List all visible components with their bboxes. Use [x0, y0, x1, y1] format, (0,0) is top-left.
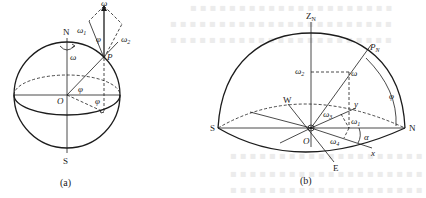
south-label: S: [210, 123, 215, 133]
omega1-dashed: [89, 6, 104, 21]
south-label: S: [63, 156, 68, 166]
polar-axis: [311, 45, 371, 128]
phi-center-label: φ: [78, 84, 83, 94]
figure-a-earth-sphere: N S O P ω ω ω1 ω2 φ φ φ (a): [14, 0, 130, 189]
figure-a-caption: (a): [60, 177, 71, 189]
horizon-front: [218, 128, 405, 152]
radial-line: [250, 112, 311, 128]
omega-label: ω: [101, 0, 107, 8]
figure-b-celestial-hemisphere: ZN PN ω ω2 ω3 ω1 ω4 φ α W E S N O x y (b…: [210, 11, 416, 187]
figure-b-caption: (b): [300, 175, 312, 187]
omega4-projection: [344, 128, 349, 138]
omega4-label: ω4: [330, 136, 339, 147]
origin-label: O: [303, 136, 310, 146]
phi-label: φ: [389, 91, 394, 101]
omega3-projection: [341, 114, 349, 128]
x-axis-label: x: [370, 148, 375, 158]
origin-dot: [310, 127, 312, 129]
celestial-pole-label: PN: [369, 42, 381, 53]
horizon-back: [218, 104, 405, 128]
y-axis-label: y: [353, 99, 358, 109]
omega1-label: ω1: [77, 25, 86, 36]
omega2-label: ω2: [295, 66, 304, 77]
point-p-label: P: [106, 52, 113, 62]
north-label: N: [409, 123, 416, 133]
zenith-label: ZN: [306, 11, 317, 22]
omega-label: ω: [351, 68, 357, 78]
phi-top-label: φ: [96, 34, 101, 44]
omega2-label: ω2: [121, 34, 130, 45]
radius-OP: [67, 42, 118, 95]
omega-rotation-label: ω: [70, 52, 76, 62]
alpha-arc: [358, 128, 360, 143]
alpha-label: α: [364, 132, 369, 142]
north-label: N: [63, 27, 70, 37]
west-label: W: [283, 95, 292, 105]
phi-bottom-label: φ: [95, 96, 100, 106]
omega1-label: ω1: [351, 116, 360, 127]
origin-label: O: [57, 96, 64, 106]
omega2-dashed: [104, 6, 122, 24]
omega3-label: ω3: [323, 109, 332, 120]
east-label: E: [333, 163, 339, 173]
